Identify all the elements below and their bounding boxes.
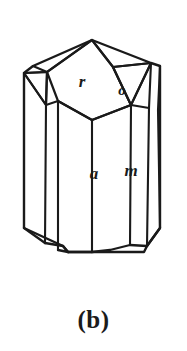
bottom-edge	[130, 245, 147, 246]
face-label-m: m	[124, 161, 137, 180]
crystal-drawing: r o a m	[0, 0, 187, 300]
face-label-a: a	[90, 164, 99, 183]
edge	[24, 72, 47, 73]
edge	[45, 105, 46, 243]
figure-caption: (b)	[0, 300, 187, 340]
face-label-r: r	[79, 72, 86, 91]
edge	[46, 72, 47, 105]
crystal-figure: r o a m (b)	[0, 0, 187, 351]
face-label-o: o	[118, 82, 126, 98]
